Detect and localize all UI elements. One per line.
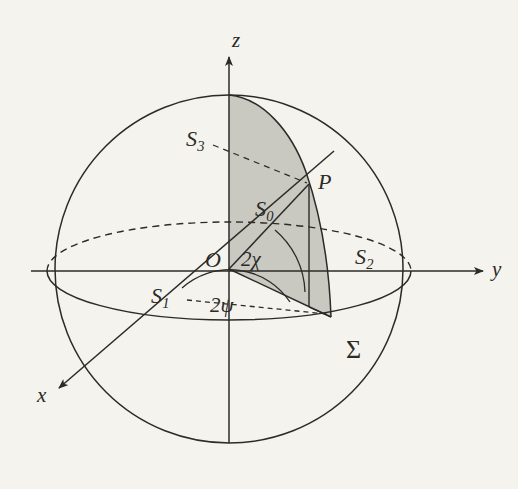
stokes-label-s2-sub: 2 bbox=[366, 256, 373, 272]
stokes-label-s2-base: S bbox=[355, 244, 366, 269]
stokes-label-s2: S2 bbox=[355, 246, 374, 271]
origin-label-o: O bbox=[205, 249, 221, 271]
stokes-label-s3-base: S bbox=[186, 126, 197, 151]
stokes-label-s0: S0 bbox=[255, 198, 274, 223]
stokes-label-s1-base: S bbox=[151, 283, 162, 308]
angle-label-two-psi: 2ψ bbox=[210, 295, 234, 316]
angle-label-two-chi: 2χ bbox=[241, 249, 261, 270]
poincare-sphere-drawing bbox=[0, 0, 518, 489]
stokes-label-s0-base: S bbox=[255, 196, 266, 221]
axis-label-y: y bbox=[492, 259, 501, 280]
point-label-p: P bbox=[318, 171, 331, 193]
stokes-label-s3-sub: 3 bbox=[197, 138, 204, 154]
stokes-label-s1-sub: 1 bbox=[162, 295, 169, 311]
surface-label-sigma: Σ bbox=[346, 337, 361, 363]
poincare-sphere-figure: z y x P O S0 S1 S2 S3 2χ 2ψ Σ bbox=[0, 0, 518, 489]
axis-label-x: x bbox=[37, 385, 46, 406]
stokes-label-s3: S3 bbox=[186, 128, 205, 153]
stokes-label-s0-sub: 0 bbox=[266, 208, 273, 224]
axis-label-z: z bbox=[232, 30, 240, 51]
stokes-label-s1: S1 bbox=[151, 285, 170, 310]
